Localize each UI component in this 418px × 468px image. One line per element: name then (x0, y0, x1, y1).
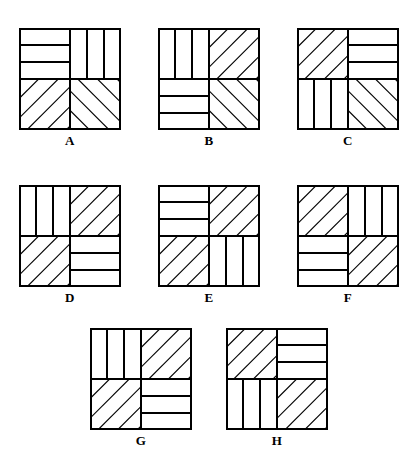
figure-cell-G[interactable]: G (73, 328, 209, 447)
pattern-square-A[interactable] (19, 28, 121, 130)
figure-cell-D[interactable]: D (1, 185, 140, 304)
pattern-square-C[interactable] (297, 28, 399, 130)
figure-cell-B[interactable]: B (140, 28, 279, 147)
figure-label-F: F (344, 291, 352, 304)
figure-row-1: A B C (0, 28, 418, 147)
figure-cell-E[interactable]: E (140, 185, 279, 304)
pattern-square-F[interactable] (297, 185, 399, 287)
figure-label-G: G (136, 434, 147, 447)
figure-label-H: H (272, 434, 283, 447)
figure-cell-C[interactable]: C (279, 28, 418, 147)
figure-label-A: A (65, 134, 75, 147)
figure-label-B: B (204, 134, 213, 147)
figure-cell-A[interactable]: A (1, 28, 140, 147)
figure-label-D: D (65, 291, 75, 304)
pattern-square-H[interactable] (226, 328, 328, 430)
pattern-square-B[interactable] (158, 28, 260, 130)
figure-row-2: D E F (0, 185, 418, 304)
figure-label-C: C (343, 134, 353, 147)
pattern-square-D[interactable] (19, 185, 121, 287)
figure-label-E: E (204, 291, 213, 304)
puzzle-sheet: A B C D E F G H (0, 0, 418, 468)
pattern-square-E[interactable] (158, 185, 260, 287)
pattern-square-G[interactable] (90, 328, 192, 430)
figure-cell-F[interactable]: F (279, 185, 418, 304)
figure-cell-H[interactable]: H (209, 328, 345, 447)
figure-row-3: G H (0, 328, 418, 447)
